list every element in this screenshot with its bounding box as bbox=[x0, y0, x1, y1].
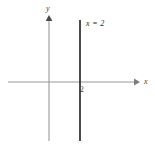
y-axis-arrowhead bbox=[46, 15, 53, 21]
x-axis-label: x bbox=[144, 78, 148, 86]
graph-canvas bbox=[0, 0, 155, 149]
x-axis-arrowhead bbox=[134, 79, 140, 86]
y-axis-label: y bbox=[46, 5, 50, 13]
x-tick-label-2: 2 bbox=[80, 86, 84, 94]
coordinate-plane-figure: y x x = 2 2 bbox=[0, 0, 155, 149]
equation-label: x = 2 bbox=[86, 20, 104, 28]
